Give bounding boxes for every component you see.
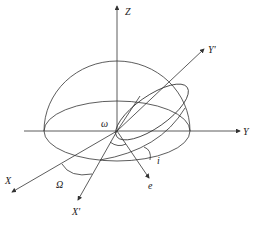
y-axis-label: Y <box>243 126 250 137</box>
x-axis <box>12 131 117 192</box>
Omega-label: Ω <box>56 179 63 190</box>
orbit-ellipse <box>108 74 197 150</box>
z-axis-label: Z <box>125 6 131 17</box>
orbital-elements-diagram: Z Y Y' X X' e ω Ω i <box>0 0 255 226</box>
y-prime-axis-label: Y' <box>208 44 217 55</box>
e-vector <box>117 131 149 178</box>
omega-label: ω <box>101 118 108 129</box>
x-axis-label: X <box>4 175 12 186</box>
inclination-label: i <box>157 155 160 166</box>
x-prime-axis <box>78 131 117 200</box>
Omega-angle-arc <box>62 164 92 175</box>
x-prime-axis-label: X' <box>71 206 81 217</box>
y-prime-axis <box>117 49 204 131</box>
e-vector-label: e <box>148 180 153 191</box>
omega-angle-arc <box>110 142 126 146</box>
